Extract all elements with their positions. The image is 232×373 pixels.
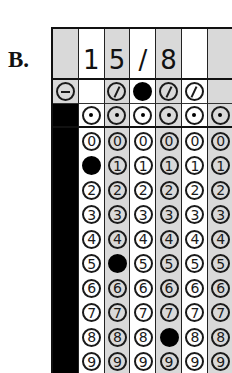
answer-box-7[interactable] — [208, 29, 232, 80]
symbol-cell — [53, 80, 79, 103]
digit-cell: 1 — [208, 154, 232, 179]
digit-bubble-4[interactable]: 4 — [185, 230, 204, 249]
decimal-point-bubble[interactable] — [159, 106, 178, 125]
digit-bubble-5[interactable]: 5 — [211, 254, 230, 273]
decimal-point-bubble[interactable] — [185, 106, 204, 125]
digit-bubble-6[interactable]: 6 — [134, 279, 153, 298]
digit-bubble-6[interactable]: 6 — [82, 279, 101, 298]
digit-bubble-0[interactable]: 0 — [82, 132, 101, 151]
digit-bubble-1[interactable]: 1 — [211, 156, 230, 175]
digit-bubble-4[interactable]: 4 — [108, 230, 127, 249]
decimal-point-bubble[interactable] — [211, 106, 230, 125]
digit-cell: 7 — [208, 301, 232, 326]
decimal-point-bubble[interactable] — [133, 106, 152, 125]
decimal-point-bubble[interactable] — [82, 106, 101, 125]
digit-cell: 8 — [182, 325, 208, 350]
digit-bubble-5[interactable]: 5 — [160, 254, 179, 273]
digit-bubble-0[interactable]: 0 — [185, 132, 204, 151]
digit-bubble-0[interactable]: 0 — [160, 132, 179, 151]
symbol-cell — [156, 80, 182, 103]
digit-bubble-6[interactable]: 6 — [108, 279, 127, 298]
digit-bubble-9[interactable]: 9 — [211, 352, 230, 371]
digit-bubble-7[interactable]: 7 — [160, 303, 179, 322]
digit-bubble-4[interactable]: 4 — [134, 230, 153, 249]
digit-bubble-7[interactable]: 7 — [211, 303, 230, 322]
digit-cell: 7 — [105, 301, 131, 326]
digit-bubble-2[interactable]: 2 — [185, 181, 204, 200]
digit-bubble-9[interactable]: 9 — [160, 352, 179, 371]
digit-bubble-5[interactable]: 5 — [82, 254, 101, 273]
decimal-point-bubble[interactable] — [107, 106, 126, 125]
digit-bubble-8[interactable]: 8 — [211, 328, 230, 347]
decimal-dot-icon — [115, 113, 119, 117]
digit-bubble-3[interactable]: 3 — [185, 205, 204, 224]
digit-bubble-8[interactable]: 8 — [185, 328, 204, 347]
digit-bubble-1[interactable]: 1 — [134, 156, 153, 175]
digit-cell: 5 — [79, 252, 105, 277]
digit-cell: 1 — [130, 154, 156, 179]
answer-box-2[interactable]: 1 — [79, 29, 105, 80]
digit-bubble-0[interactable]: 0 — [211, 132, 230, 151]
digit-bubble-0[interactable]: 0 — [108, 132, 127, 151]
digit-bubble-5-filled[interactable]: 5 — [108, 254, 127, 273]
digit-bubble-5[interactable]: 5 — [185, 254, 204, 273]
digit-bubble-1[interactable]: 1 — [108, 156, 127, 175]
digit-bubble-4[interactable]: 4 — [211, 230, 230, 249]
fraction-slash-bubble[interactable] — [107, 82, 126, 101]
digit-bubble-3[interactable]: 3 — [82, 205, 101, 224]
digit-cell: 5 — [156, 252, 182, 277]
digit-bubble-1[interactable]: 1 — [185, 156, 204, 175]
digit-bubble-2[interactable]: 2 — [211, 181, 230, 200]
digit-bubble-7[interactable]: 7 — [108, 303, 127, 322]
digit-bubble-1-filled[interactable]: 1 — [82, 156, 101, 175]
fraction-slash-bubble[interactable] — [185, 82, 204, 101]
decimal-dot-icon — [141, 113, 145, 117]
digit-bubble-6[interactable]: 6 — [211, 279, 230, 298]
digit-cell: 6 — [105, 276, 131, 301]
digit-bubble-7[interactable]: 7 — [134, 303, 153, 322]
digit-bubble-6[interactable]: 6 — [185, 279, 204, 298]
digit-bubble-8[interactable]: 8 — [108, 328, 127, 347]
digit-bubble-3[interactable]: 3 — [160, 205, 179, 224]
digit-bubble-3[interactable]: 3 — [211, 205, 230, 224]
digit-bubble-3[interactable]: 3 — [108, 205, 127, 224]
digit-bubble-6[interactable]: 6 — [160, 279, 179, 298]
digit-bubble-9[interactable]: 9 — [108, 352, 127, 371]
digit-bubble-8[interactable]: 8 — [134, 328, 153, 347]
digit-bubble-1[interactable]: 1 — [160, 156, 179, 175]
digit-cell: 1 — [182, 154, 208, 179]
digit-cell: 2 — [79, 178, 105, 203]
answer-box-5[interactable]: 8 — [156, 29, 182, 80]
decimal-cell — [53, 103, 79, 128]
digit-bubble-2[interactable]: 2 — [134, 181, 153, 200]
digit-bubble-2[interactable]: 2 — [108, 181, 127, 200]
digit-bubble-3[interactable]: 3 — [134, 205, 153, 224]
digit-bubble-2[interactable]: 2 — [82, 181, 101, 200]
digit-bubble-4[interactable]: 4 — [82, 230, 101, 249]
answer-box-6[interactable] — [182, 29, 208, 80]
digit-bubble-2[interactable]: 2 — [160, 181, 179, 200]
symbol-cell — [182, 80, 208, 103]
fraction-slash-bubble[interactable] — [159, 82, 178, 101]
digit-cell: 1 — [156, 154, 182, 179]
digit-bubble-7[interactable]: 7 — [82, 303, 101, 322]
digit-bubble-8[interactable]: 8 — [82, 328, 101, 347]
digit-bubble-7[interactable]: 7 — [185, 303, 204, 322]
digit-bubble-0[interactable]: 0 — [134, 132, 153, 151]
answer-box-1[interactable] — [53, 29, 79, 80]
answer-box-4[interactable]: / — [130, 29, 156, 80]
answer-box-3[interactable]: 5 — [105, 29, 131, 80]
digit-cell: 0 — [182, 129, 208, 154]
fraction-slash-bubble-filled[interactable] — [133, 82, 152, 101]
digit-bubble-8-filled[interactable]: 8 — [160, 328, 179, 347]
decimal-cell — [156, 103, 182, 128]
digit-bubble-9[interactable]: 9 — [185, 352, 204, 371]
digit-cell: 2 — [130, 178, 156, 203]
decimal-dot-icon — [218, 113, 222, 117]
digit-bubble-4[interactable]: 4 — [160, 230, 179, 249]
digit-bubble-9[interactable]: 9 — [134, 352, 153, 371]
digit-cell: 9 — [105, 350, 131, 373]
digit-bubble-5[interactable]: 5 — [134, 254, 153, 273]
minus-bubble[interactable] — [56, 82, 75, 101]
digit-bubble-9[interactable]: 9 — [82, 352, 101, 371]
